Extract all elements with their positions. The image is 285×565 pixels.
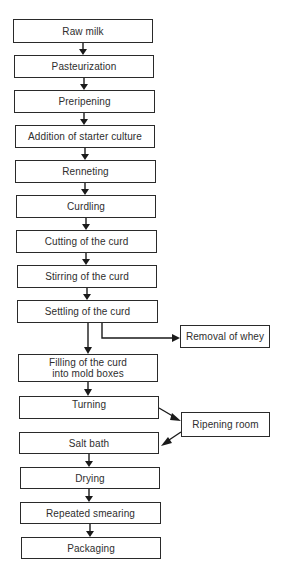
- step-label: Preripening: [58, 96, 110, 107]
- step-label: Ripening room: [192, 419, 258, 430]
- arrow-settling-to-removal-of-whey: [102, 323, 180, 342]
- step-cutting-of-the-curd: Cutting of the curd: [16, 230, 157, 253]
- step-label: Pasteurization: [52, 61, 117, 72]
- step-label-line2: into mold boxes: [49, 368, 127, 379]
- arrow-smearing-to-packaging: [86, 524, 94, 537]
- step-drying: Drying: [20, 467, 160, 489]
- arrow-raw-milk-to-pasteurization: [79, 43, 87, 55]
- step-curdling: Curdling: [16, 195, 156, 218]
- step-filling-of-the-curd: Filling of the curd into mold boxes: [18, 354, 158, 382]
- arrow-settling-to-filling: [84, 323, 92, 354]
- step-label: Packaging: [67, 543, 115, 554]
- side-step-removal-of-whey: Removal of whey: [180, 325, 270, 348]
- step-turning: Turning: [19, 396, 159, 419]
- step-label: Drying: [75, 473, 105, 484]
- step-label: Removal of whey: [186, 331, 264, 342]
- step-label: Renneting: [62, 166, 109, 177]
- step-label: Salt bath: [69, 438, 109, 449]
- arrow-pasteurization-to-preripening: [80, 78, 88, 90]
- arrow-salt-bath-to-drying: [85, 454, 93, 467]
- step-preripening: Preripening: [14, 90, 155, 113]
- arrow-drying-to-smearing: [85, 489, 93, 502]
- flowchart: Raw milk Pasteurization Preripening Addi…: [0, 0, 285, 565]
- arrow-ripening-room-to-salt-bath: [161, 432, 181, 446]
- step-raw-milk: Raw milk: [13, 19, 153, 43]
- step-label: Repeated smearing: [46, 508, 135, 519]
- side-step-ripening-room: Ripening room: [181, 412, 270, 437]
- step-label-multiline: Filling of the curd into mold boxes: [49, 357, 127, 379]
- step-settling-of-the-curd: Settling of the curd: [17, 300, 158, 323]
- arrow-filling-to-turning: [84, 382, 92, 396]
- step-label: Settling of the curd: [45, 306, 130, 317]
- step-stirring-of-the-curd: Stirring of the curd: [17, 265, 157, 288]
- arrow-curdling-to-cutting: [82, 218, 90, 230]
- step-label: Addition of starter culture: [28, 131, 142, 142]
- step-label: Stirring of the curd: [45, 271, 129, 282]
- step-repeated-smearing: Repeated smearing: [20, 502, 161, 524]
- arrow-turning-to-ripening-room: [159, 408, 181, 421]
- arrow-preripening-to-addition: [80, 113, 88, 125]
- arrow-stirring-to-settling: [83, 288, 91, 300]
- step-packaging: Packaging: [21, 537, 161, 559]
- step-label: Turning: [72, 399, 106, 410]
- arrow-renneting-to-curdling: [81, 183, 89, 195]
- step-label-line1: Filling of the curd: [49, 357, 127, 368]
- arrow-cutting-to-stirring: [82, 253, 90, 265]
- step-renneting: Renneting: [15, 160, 156, 183]
- step-addition-of-starter-culture: Addition of starter culture: [15, 125, 155, 148]
- step-salt-bath: Salt bath: [19, 432, 159, 454]
- step-label: Raw milk: [62, 26, 103, 37]
- step-pasteurization: Pasteurization: [14, 55, 154, 78]
- arrow-addition-to-renneting: [81, 148, 89, 160]
- step-label: Curdling: [67, 201, 105, 212]
- step-label: Cutting of the curd: [45, 236, 129, 247]
